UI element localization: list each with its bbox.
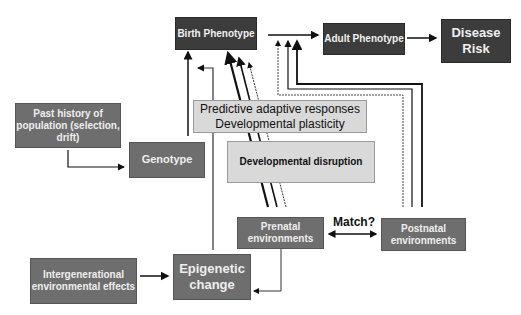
past-history-label: Past history of population (selection, d…: [16, 108, 120, 144]
match-label: Match?: [333, 215, 375, 229]
epigenetic-change-node: Epigenetic change: [173, 254, 251, 300]
epigenetic-label: Epigenetic change: [174, 261, 250, 292]
developmental-disruption-label: Developmental disruption: [240, 156, 363, 168]
predictive-line2: Developmental plasticity: [215, 117, 344, 131]
prenatal-label: Prenatal environments: [238, 221, 323, 245]
adult-phenotype-node: Adult Phenotype: [323, 23, 405, 55]
prenatal-environments-node: Prenatal environments: [237, 217, 324, 249]
past-history-node: Past history of population (selection, d…: [15, 103, 121, 148]
genotype-label: Genotype: [142, 153, 193, 166]
predictive-line1: Predictive adaptive responses: [200, 102, 360, 116]
birth-phenotype-node: Birth Phenotype: [175, 17, 257, 50]
birth-phenotype-label: Birth Phenotype: [177, 28, 254, 40]
intergenerational-effects-node: Intergenerational environmental effects: [30, 258, 137, 304]
postnatal-environments-node: Postnatal environments: [381, 218, 466, 251]
adult-phenotype-label: Adult Phenotype: [324, 33, 403, 45]
postnatal-label: Postnatal environments: [382, 223, 465, 247]
intergenerational-label: Intergenerational environmental effects: [31, 269, 136, 293]
predictive-adaptive-responses-node: Predictive adaptive responses Developmen…: [193, 100, 367, 133]
disease-risk-label: Disease Risk: [442, 25, 510, 56]
developmental-disruption-node: Developmental disruption: [227, 141, 375, 183]
disease-risk-node: Disease Risk: [441, 19, 511, 63]
genotype-node: Genotype: [129, 142, 205, 178]
